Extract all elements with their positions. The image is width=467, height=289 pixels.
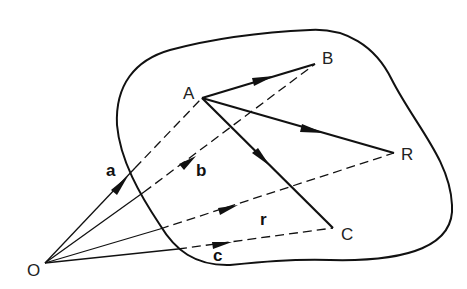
label-vector-r: r — [260, 210, 267, 229]
arrowhead-b-icon — [179, 156, 196, 170]
line-oc-solid — [45, 249, 178, 263]
label-point-c: C — [341, 225, 353, 244]
label-point-r: R — [401, 145, 413, 164]
arrowhead-r-icon — [218, 205, 238, 215]
body-vector-arrowheads — [252, 76, 324, 166]
label-point-b: B — [322, 49, 333, 68]
label-vector-b: b — [196, 161, 206, 180]
label-point-o: O — [27, 261, 40, 280]
arrowhead-ar-icon — [300, 124, 324, 133]
body-vectors — [202, 64, 394, 228]
label-vector-a: a — [106, 161, 116, 180]
line-oc-dashed — [178, 228, 333, 249]
label-vector-c: c — [213, 246, 222, 265]
line-oa-dashed — [135, 98, 202, 168]
label-point-a: A — [183, 84, 195, 103]
line-or-solid — [45, 229, 160, 263]
arrowhead-ab-icon — [252, 76, 274, 86]
line-ob-solid — [45, 192, 144, 263]
vector-diagram: O A B R C a b r c — [0, 0, 467, 289]
line-ob-dashed — [144, 64, 315, 192]
